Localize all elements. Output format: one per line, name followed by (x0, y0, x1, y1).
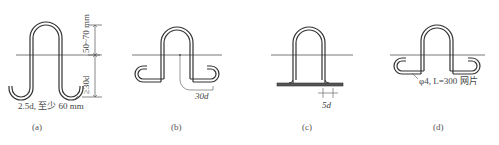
caption-c: (c) (302, 122, 312, 132)
figure-d: φ4, L=300 网片 (d) (390, 25, 485, 132)
mesh-note-label: φ4, L=300 网片 (419, 75, 478, 86)
dim-embed-label: ≥30d (81, 75, 91, 94)
caption-a: (a) (32, 122, 42, 132)
base-plate (277, 83, 343, 86)
figure-b: 30d (b) (132, 27, 222, 132)
caption-b: (b) (171, 122, 182, 132)
hook-note-label: 2.5d, 至少 60 mm (18, 101, 84, 111)
figure-c: 5d (c) (271, 27, 353, 132)
hook-dimension-label: 30d (194, 91, 209, 101)
dim-top-label: 50~70 mm (81, 14, 91, 53)
weld-dimension-label: 5d (322, 100, 332, 110)
tie-diagram-canvas: 50~70 mm ≥30d 2.5d, 至少 60 mm (a) 30d (b) (0, 0, 499, 145)
caption-d: (d) (433, 122, 444, 132)
figure-a: 50~70 mm ≥30d 2.5d, 至少 60 mm (a) (9, 14, 102, 132)
